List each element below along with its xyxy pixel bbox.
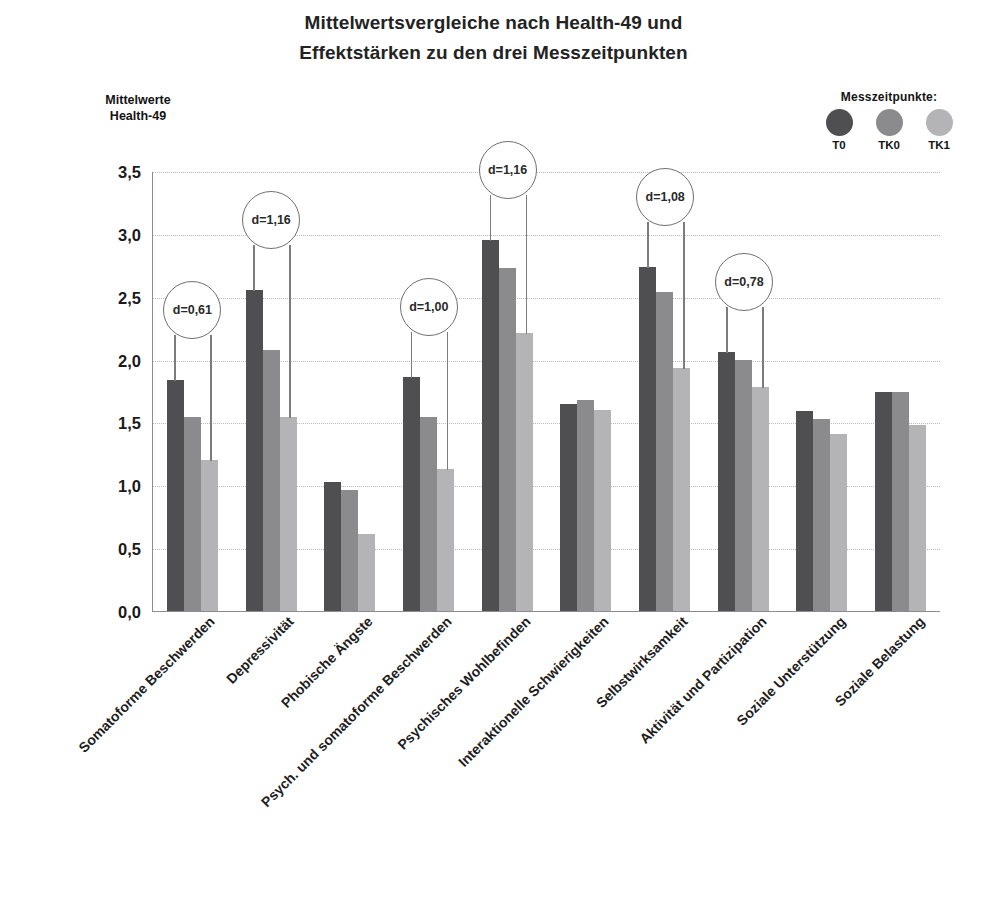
x-axis-label: Interaktionelle Schwierigkeiten [456, 614, 611, 769]
x-axis-label: Depressivität [224, 614, 296, 686]
legend-item-label: TK0 [869, 139, 909, 151]
legend-item-label: T0 [819, 139, 859, 151]
effect-size-callout: d=1,16 [242, 191, 300, 249]
bar-group [153, 172, 232, 611]
callout-leg-t0 [647, 222, 649, 268]
bar-t0 [796, 411, 813, 611]
legend: Messzeitpunkte: T0TK0TK1 [809, 90, 969, 151]
y-axis-tick-label: 0,5 [118, 540, 141, 559]
bar-group [861, 172, 940, 611]
legend-swatch-icon [826, 109, 853, 136]
chart-title-line-1: Mittelwertsvergleiche nach Health-49 und [305, 12, 683, 33]
bar-tk1 [830, 434, 847, 611]
bar-t0 [875, 392, 892, 611]
bar-tk1 [909, 425, 926, 611]
bar-tk1 [752, 387, 769, 611]
y-axis-tick-label: 2,5 [118, 288, 141, 307]
legend-item-t0: T0 [819, 109, 859, 151]
callout-leg-tk1 [447, 332, 449, 470]
bar-tk0 [656, 292, 673, 611]
legend-item-tk0: TK0 [869, 109, 909, 151]
x-axis-label: Somatoforme Beschwerden [76, 614, 217, 755]
bar-t0 [246, 290, 263, 611]
callout-leg-t0 [490, 195, 492, 241]
y-axis-caption: Mittelwerte Health-49 [88, 92, 188, 124]
chart-page: Mittelwertsvergleiche nach Health-49 und… [0, 0, 987, 901]
callout-leg-t0 [253, 245, 255, 291]
bar-tk1 [280, 417, 297, 611]
callout-leg-t0 [174, 335, 176, 381]
bar-t0 [403, 377, 420, 611]
bar-tk0 [420, 417, 437, 611]
bar-tk1 [516, 333, 533, 611]
bar-tk1 [673, 368, 690, 611]
bar-tk0 [813, 419, 830, 611]
effect-size-callout: d=0,78 [715, 253, 773, 311]
effect-size-label: d=1,00 [400, 278, 458, 336]
callout-leg-t0 [726, 307, 728, 353]
callout-leg-tk1 [683, 222, 685, 370]
y-axis-tick-label: 3,5 [118, 163, 141, 182]
bar-t0 [718, 352, 735, 611]
x-axis-labels: Somatoforme BeschwerdenDepressivitätPhob… [152, 614, 940, 854]
x-axis-label: Soziale Belastung [832, 614, 927, 709]
legend-items: T0TK0TK1 [809, 109, 969, 151]
bar-t0 [639, 267, 656, 611]
legend-title: Messzeitpunkte: [809, 90, 969, 104]
y-axis-tick-label: 2,0 [118, 351, 141, 370]
plot-area: 0,00,51,01,52,02,53,03,5 d=0,61d=1,16d=1… [152, 172, 940, 612]
bar-t0 [482, 240, 499, 611]
bar-t0 [167, 380, 184, 611]
bar-tk0 [577, 400, 594, 611]
bar-group [547, 172, 626, 611]
bar-tk1 [437, 469, 454, 611]
bar-tk0 [263, 350, 280, 611]
bar-tk0 [341, 490, 358, 611]
callout-leg-t0 [411, 332, 413, 378]
bar-group [783, 172, 862, 611]
bar-group [389, 172, 468, 611]
legend-swatch-icon [926, 109, 953, 136]
y-axis-tick-label: 1,0 [118, 477, 141, 496]
effect-size-label: d=1,16 [242, 191, 300, 249]
y-axis-caption-line-2: Health-49 [110, 109, 166, 123]
bar-t0 [324, 482, 341, 611]
effect-size-label: d=0,78 [715, 253, 773, 311]
bar-tk0 [735, 360, 752, 611]
chart-title-line-2: Effektstärken zu den drei Messzeitpunkte… [0, 38, 987, 68]
callout-leg-tk1 [762, 307, 764, 388]
effect-size-callout: d=0,61 [163, 281, 221, 339]
bar-tk1 [594, 410, 611, 611]
bar-t0 [560, 404, 577, 611]
bar-group [625, 172, 704, 611]
legend-item-tk1: TK1 [919, 109, 959, 151]
x-axis-label: Psychisches Wohlbefinden [395, 614, 533, 752]
effect-size-label: d=0,61 [163, 281, 221, 339]
y-axis-caption-line-1: Mittelwerte [105, 93, 170, 107]
effect-size-callout: d=1,08 [636, 168, 694, 226]
bar-tk1 [358, 534, 375, 611]
y-axis-tick-label: 1,5 [118, 414, 141, 433]
bar-tk0 [499, 268, 516, 611]
effect-size-callout: d=1,16 [479, 141, 537, 199]
bar-tk0 [892, 392, 909, 611]
y-axis-tick-label: 3,0 [118, 225, 141, 244]
callout-leg-tk1 [289, 245, 291, 418]
x-axis-label: Aktivität und Partizipation [637, 614, 769, 746]
bar-group [704, 172, 783, 611]
callout-leg-tk1 [526, 195, 528, 334]
bar-group [310, 172, 389, 611]
legend-swatch-icon [876, 109, 903, 136]
legend-item-label: TK1 [919, 139, 959, 151]
bar-tk1 [201, 460, 218, 611]
callout-leg-tk1 [210, 335, 212, 461]
y-axis-tick-label: 0,0 [118, 603, 141, 622]
effect-size-callout: d=1,00 [400, 278, 458, 336]
effect-size-label: d=1,16 [479, 141, 537, 199]
effect-size-label: d=1,08 [636, 168, 694, 226]
bar-tk0 [184, 417, 201, 611]
bar-group [468, 172, 547, 611]
chart-title: Mittelwertsvergleiche nach Health-49 und… [0, 8, 987, 68]
